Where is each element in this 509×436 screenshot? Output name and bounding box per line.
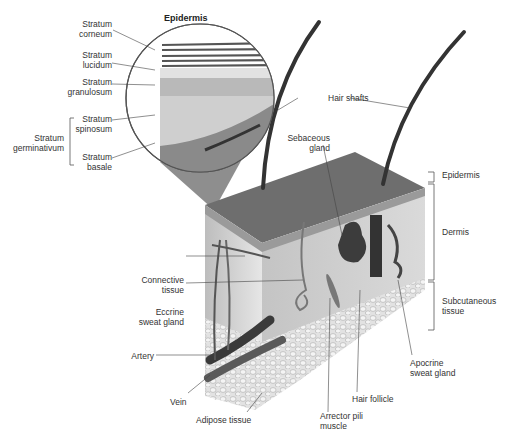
label-adipose-tissue: Adipose tissue [196,415,251,425]
label-stratum-spinosum: Stratumspinosum [60,114,112,134]
label-artery: Artery [120,351,154,361]
label-eccrine-sweat-gland: Eccrinesweat gland [120,307,184,327]
label-dermis: Dermis [442,227,469,237]
inset-title: Epidermis [164,13,208,23]
label-stratum-germinativum: Stratumgerminativum [2,133,64,153]
label-hair-follicle: Hair follicle [352,394,394,404]
label-vein: Vein [170,397,187,407]
label-epidermis: Epidermis [442,170,480,180]
label-sebaceous-gland: Sebaceousgland [280,133,330,153]
label-subcutaneous-tissue: Subcutaneoustissue [442,296,496,316]
label-stratum-lucidum: Stratumlucidum [60,50,112,70]
label-hair-shafts: Hair shafts [328,93,369,103]
label-stratum-granulosum: Stratumgranulosum [50,77,112,97]
label-stratum-basale: Stratumbasale [60,152,112,172]
label-connective-tissue: Connectivetissue [120,275,184,295]
label-stratum-corneum: Stratumcorneum [60,19,112,39]
label-apocrine-sweat-gland: Apocrinesweat gland [410,358,455,378]
label-arrector-pili-muscle: Arrector pilimuscle [320,411,363,431]
